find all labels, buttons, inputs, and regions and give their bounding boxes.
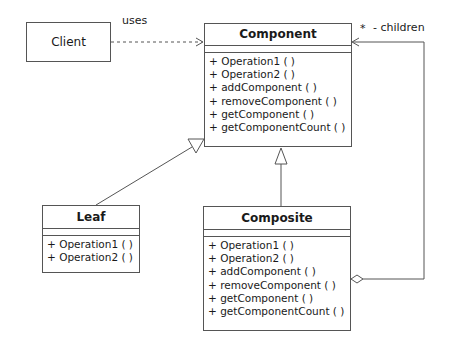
operation: + getComponent ( ) [209,108,351,121]
component-class-name: Component [205,24,351,46]
operation: + Operation1 ( ) [47,238,139,251]
component-class[interactable]: Component + Operation1 ( ) + Operation2 … [204,23,352,147]
operation: + getComponent ( ) [208,292,350,305]
component-attributes [205,46,351,53]
operation: + addComponent ( ) [209,81,351,94]
operation: + Operation1 ( ) [208,239,350,252]
children-role-label: - children [373,21,425,34]
operation: + getComponentCount ( ) [208,305,350,318]
operation: + Operation1 ( ) [209,55,351,68]
operation: + addComponent ( ) [208,265,350,278]
operation: + removeComponent ( ) [209,95,351,108]
leaf-class[interactable]: Leaf + Operation1 ( ) + Operation2 ( ) [42,205,140,273]
leaf-class-name: Leaf [43,206,139,229]
uses-dependency-arrow [111,38,203,46]
component-operations: + Operation1 ( ) + Operation2 ( ) + addC… [205,53,351,134]
operation: + Operation2 ( ) [209,68,351,81]
composite-attributes [204,230,350,237]
composite-operations: + Operation1 ( ) + Operation2 ( ) + addC… [204,237,350,318]
operation: + removeComponent ( ) [208,279,350,292]
children-multiplicity: * [360,22,366,35]
operation: + Operation2 ( ) [47,251,139,264]
client-class[interactable]: Client [26,22,111,62]
client-class-name: Client [51,35,86,49]
children-aggregation-line [351,38,424,283]
leaf-operations: + Operation1 ( ) + Operation2 ( ) [43,236,139,264]
operation: + Operation2 ( ) [208,252,350,265]
leaf-generalization-arrow [96,139,204,205]
leaf-attributes [43,229,139,236]
composite-class-name: Composite [204,207,350,230]
uses-label: uses [122,14,147,27]
operation: + getComponentCount ( ) [209,121,351,134]
composite-class[interactable]: Composite + Operation1 ( ) + Operation2 … [203,206,351,331]
composite-generalization-arrow [275,148,287,206]
